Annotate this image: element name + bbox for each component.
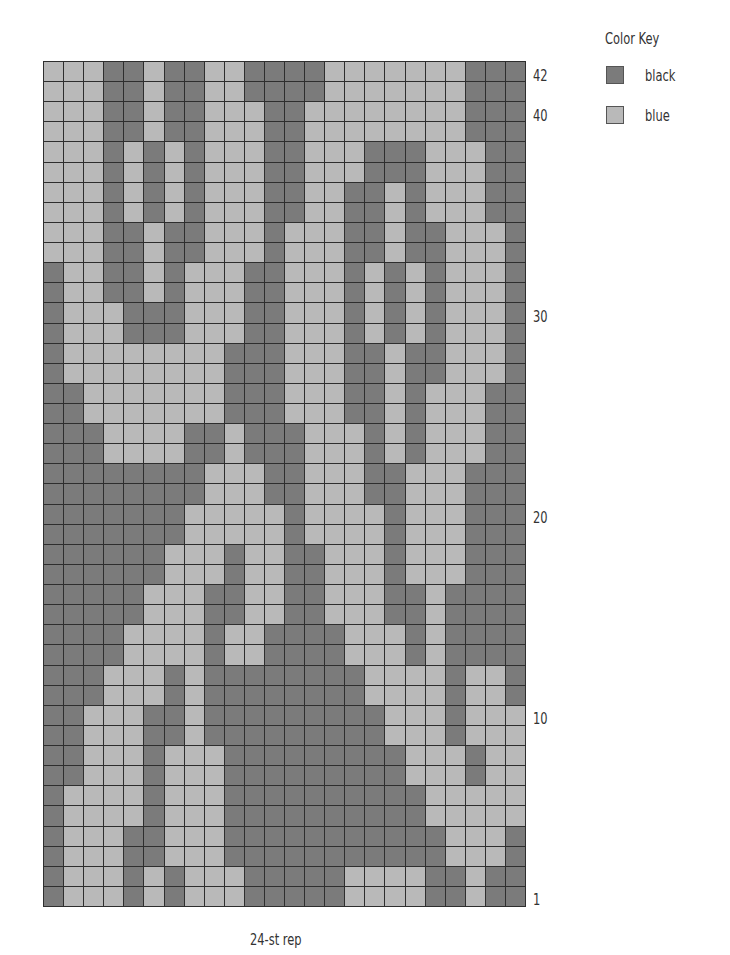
chart-cell	[165, 827, 184, 846]
black-swatch	[606, 66, 624, 84]
chart-cell	[165, 505, 184, 524]
chart-cell	[185, 62, 204, 81]
chart-cell	[225, 203, 244, 222]
chart-cell	[446, 545, 465, 564]
chart-cell	[44, 82, 63, 101]
chart-cell	[426, 585, 445, 604]
chart-cell	[325, 62, 344, 81]
chart-cell	[124, 444, 143, 463]
chart-cell	[104, 364, 123, 383]
chart-cell	[205, 827, 224, 846]
chart-cell	[345, 82, 364, 101]
chart-cell	[426, 867, 445, 886]
chart-cell	[165, 203, 184, 222]
chart-cell	[205, 484, 224, 503]
chart-cell	[124, 263, 143, 282]
chart-cell	[64, 424, 83, 443]
chart-cell	[305, 505, 324, 524]
chart-cell	[305, 82, 324, 101]
chart-cell	[64, 203, 83, 222]
chart-cell	[104, 203, 123, 222]
chart-cell	[466, 505, 485, 524]
chart-cell	[44, 142, 63, 161]
chart-cell	[325, 645, 344, 664]
chart-cell	[345, 565, 364, 584]
chart-cell	[185, 525, 204, 544]
chart-cell	[44, 303, 63, 322]
chart-cell	[305, 484, 324, 503]
chart-cell	[225, 706, 244, 725]
chart-cell	[144, 525, 163, 544]
chart-cell	[345, 163, 364, 182]
chart-cell	[144, 827, 163, 846]
chart-cell	[84, 625, 103, 644]
chart-cell	[506, 444, 525, 463]
chart-cell	[426, 223, 445, 242]
chart-cell	[265, 585, 284, 604]
chart-cell	[205, 444, 224, 463]
chart-cell	[124, 122, 143, 141]
chart-cell	[446, 303, 465, 322]
chart-cell	[446, 565, 465, 584]
chart-cell	[225, 142, 244, 161]
chart-cell	[466, 62, 485, 81]
chart-cell	[265, 726, 284, 745]
chart-cell	[486, 303, 505, 322]
chart-cell	[385, 203, 404, 222]
chart-cell	[385, 122, 404, 141]
chart-cell	[365, 806, 384, 825]
chart-cell	[185, 545, 204, 564]
chart-cell	[84, 223, 103, 242]
chart-cell	[446, 203, 465, 222]
chart-cell	[426, 726, 445, 745]
chart-cell	[165, 364, 184, 383]
chart-cell	[486, 444, 505, 463]
chart-cell	[466, 122, 485, 141]
chart-cell	[406, 867, 425, 886]
chart-cell	[245, 243, 264, 262]
chart-cell	[345, 424, 364, 443]
chart-cell	[44, 786, 63, 805]
chart-cell	[185, 746, 204, 765]
chart-cell	[345, 484, 364, 503]
chart-cell	[345, 324, 364, 343]
chart-cell	[506, 82, 525, 101]
chart-cell	[365, 505, 384, 524]
chart-cell	[225, 786, 244, 805]
chart-cell	[305, 404, 324, 423]
chart-cell	[84, 706, 103, 725]
chart-cell	[64, 887, 83, 906]
chart-cell	[144, 726, 163, 745]
chart-cell	[64, 686, 83, 705]
row-label-10: 10	[533, 712, 548, 727]
chart-cell	[285, 827, 304, 846]
chart-cell	[285, 565, 304, 584]
chart-cell	[385, 183, 404, 202]
chart-cell	[325, 183, 344, 202]
chart-cell	[466, 444, 485, 463]
chart-cell	[104, 163, 123, 182]
chart-cell	[44, 464, 63, 483]
chart-cell	[104, 645, 123, 664]
chart-cell	[205, 223, 224, 242]
chart-cell	[285, 444, 304, 463]
chart-cell	[446, 484, 465, 503]
blue-swatch	[606, 106, 624, 124]
chart-cell	[466, 484, 485, 503]
chart-cell	[245, 505, 264, 524]
chart-cell	[165, 666, 184, 685]
chart-cell	[245, 847, 264, 866]
chart-cell	[325, 605, 344, 624]
chart-cell	[466, 263, 485, 282]
chart-cell	[104, 827, 123, 846]
chart-cell	[486, 585, 505, 604]
chart-cell	[466, 404, 485, 423]
chart-cell	[185, 404, 204, 423]
chart-cell	[44, 585, 63, 604]
chart-cell	[265, 666, 284, 685]
chart-cell	[325, 484, 344, 503]
chart-cell	[265, 62, 284, 81]
chart-cell	[205, 746, 224, 765]
chart-cell	[406, 666, 425, 685]
chart-cell	[124, 243, 143, 262]
